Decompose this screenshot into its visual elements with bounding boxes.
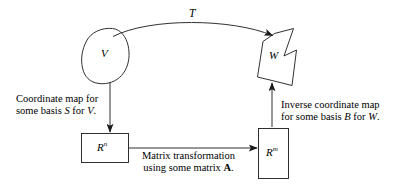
rn-exponent: n	[104, 140, 108, 148]
caption-text: for	[351, 111, 369, 122]
vector-space-w-label: W	[269, 50, 278, 62]
matrix-transformation-caption-line1: Matrix transformation	[142, 150, 235, 162]
rm-box-label: Rm	[266, 147, 278, 159]
caption-period: .	[377, 111, 380, 122]
coordinate-map-caption-line1: Coordinate map for	[16, 93, 98, 105]
caption-text: some basis	[16, 105, 64, 116]
rm-exponent: m	[273, 145, 278, 153]
arrow-t-arc	[113, 23, 273, 37]
coordinate-map-caption-line2: some basis S for V.	[16, 105, 98, 117]
matrix-transformation-caption-line2: using some matrix A.	[142, 162, 235, 174]
inverse-coordinate-map-caption: Inverse coordinate map for some basis B …	[281, 99, 380, 122]
inverse-coordinate-map-caption-line2: for some basis B for W.	[281, 111, 380, 123]
caption-period: .	[94, 105, 97, 116]
space-w-symbol: W	[368, 111, 377, 122]
rn-box-label: Rn	[97, 142, 107, 154]
transformation-t-label: T	[189, 8, 195, 20]
vector-space-v-label: V	[101, 48, 108, 60]
matrix-a-symbol: A	[224, 162, 232, 173]
caption-text: using some matrix	[143, 162, 223, 173]
coordinate-map-caption: Coordinate map for some basis S for V.	[16, 93, 98, 116]
caption-period: .	[231, 162, 234, 173]
inverse-coordinate-map-caption-line1: Inverse coordinate map	[281, 99, 380, 111]
rm-base: R	[266, 146, 273, 158]
caption-text: for some basis	[281, 111, 344, 122]
matrix-transformation-caption: Matrix transformation using some matrix …	[142, 150, 235, 173]
caption-text: for	[70, 105, 88, 116]
rn-base: R	[97, 141, 104, 153]
diagram-canvas: V W Rn Rm T Coordinate map for some basi…	[0, 0, 400, 191]
